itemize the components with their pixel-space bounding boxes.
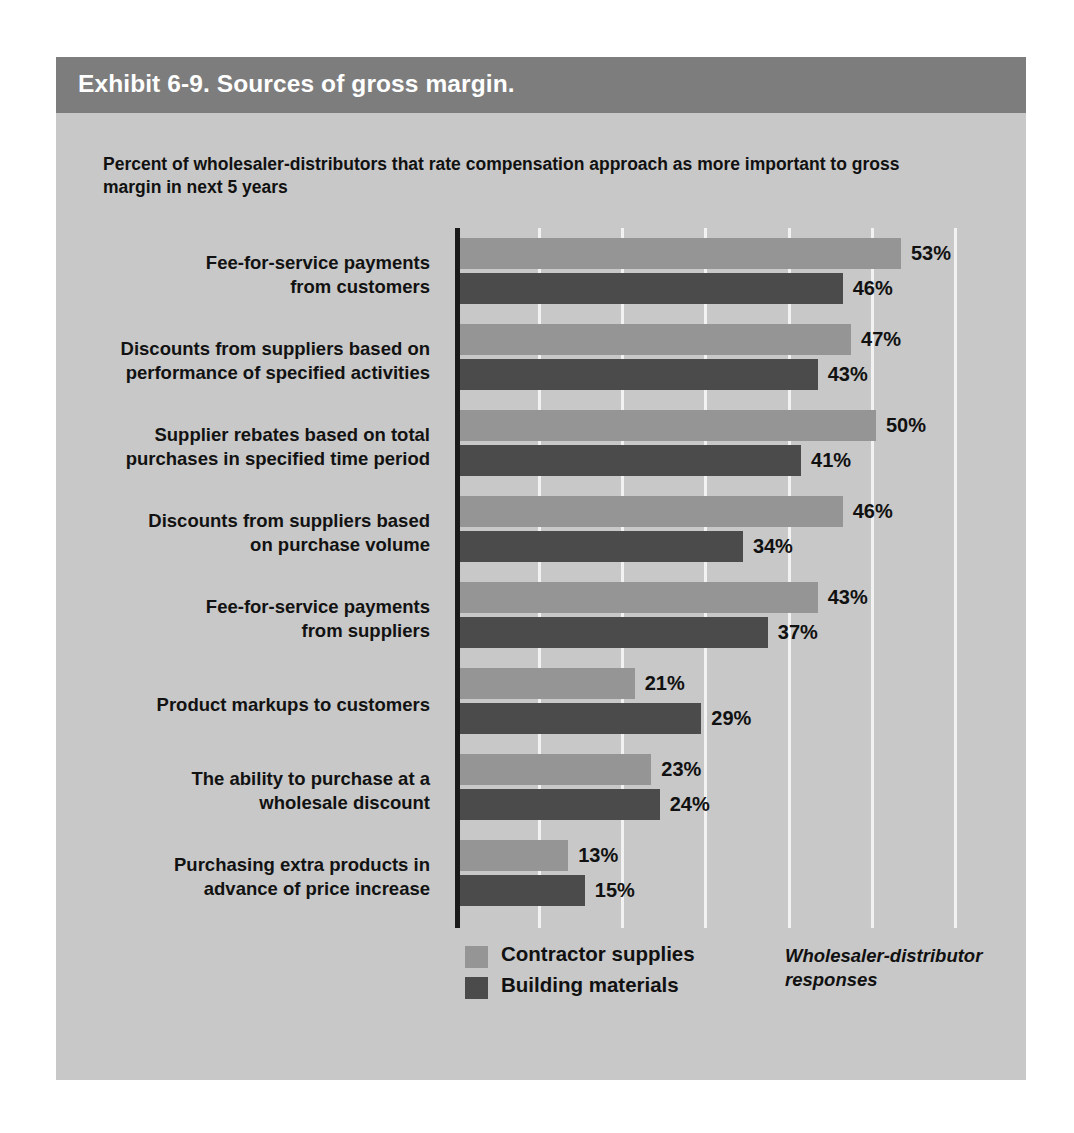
category-label-line: performance of specified activities	[90, 361, 430, 385]
bar-value-label: 37%	[778, 621, 818, 644]
category-label-line: Supplier rebates based on total	[90, 423, 430, 447]
bar-light[interactable]	[460, 840, 568, 871]
bar-value-label: 34%	[753, 535, 793, 558]
chart-subtitle: Percent of wholesaler-distributors that …	[103, 153, 933, 199]
source-note: Wholesaler-distributor responses	[785, 944, 1015, 992]
bar-row[interactable]: 43%	[460, 359, 1000, 390]
exhibit-title: Exhibit 6-9. Sources of gross margin.	[78, 70, 515, 98]
exhibit-card: Exhibit 6-9. Sources of gross margin. Pe…	[56, 57, 1026, 1080]
bar-light[interactable]	[460, 754, 651, 785]
bar-value-label: 13%	[578, 844, 618, 867]
bar-group: Fee-for-service paymentsfrom suppliers43…	[56, 576, 1026, 662]
bar-row[interactable]: 53%	[460, 238, 1000, 269]
bar-group: The ability to purchase at awholesale di…	[56, 748, 1026, 834]
bar-group: Supplier rebates based on totalpurchases…	[56, 404, 1026, 490]
category-label: Fee-for-service paymentsfrom customers	[90, 251, 430, 299]
bar-dark[interactable]	[460, 789, 660, 820]
bar-row[interactable]: 47%	[460, 324, 1000, 355]
bar-light[interactable]	[460, 324, 851, 355]
bar-group: Product markups to customers21%29%	[56, 662, 1026, 748]
category-label: Fee-for-service paymentsfrom suppliers	[90, 595, 430, 643]
category-label: Discounts from suppliers based onperform…	[90, 337, 430, 385]
bar-row[interactable]: 46%	[460, 273, 1000, 304]
chart-plot-area: Fee-for-service paymentsfrom customers53…	[56, 228, 1026, 928]
bar-row[interactable]: 24%	[460, 789, 1000, 820]
legend-label: Building materials	[501, 973, 679, 997]
bar-value-label: 23%	[661, 758, 701, 781]
category-label-line: from suppliers	[90, 619, 430, 643]
category-label-line: advance of price increase	[90, 877, 430, 901]
category-label-line: from customers	[90, 275, 430, 299]
category-label-line: Fee-for-service payments	[90, 595, 430, 619]
bar-value-label: 43%	[828, 586, 868, 609]
legend-swatch-icon	[465, 977, 488, 999]
bar-value-label: 29%	[711, 707, 751, 730]
bar-value-label: 47%	[861, 328, 901, 351]
bar-dark[interactable]	[460, 703, 701, 734]
bar-dark[interactable]	[460, 875, 585, 906]
bar-value-label: 43%	[828, 363, 868, 386]
bar-dark[interactable]	[460, 273, 843, 304]
bar-light[interactable]	[460, 582, 818, 613]
category-label: Product markups to customers	[90, 693, 430, 717]
category-label-line: purchases in specified time period	[90, 447, 430, 471]
bar-row[interactable]: 37%	[460, 617, 1000, 648]
bar-group: Purchasing extra products inadvance of p…	[56, 834, 1026, 920]
bar-row[interactable]: 41%	[460, 445, 1000, 476]
bar-row[interactable]: 29%	[460, 703, 1000, 734]
bar-row[interactable]: 43%	[460, 582, 1000, 613]
category-label: Supplier rebates based on totalpurchases…	[90, 423, 430, 471]
legend-swatch-icon	[465, 946, 488, 968]
bar-value-label: 15%	[595, 879, 635, 902]
bar-value-label: 41%	[811, 449, 851, 472]
bar-dark[interactable]	[460, 359, 818, 390]
bar-dark[interactable]	[460, 531, 743, 562]
bar-row[interactable]: 21%	[460, 668, 1000, 699]
category-label: Purchasing extra products inadvance of p…	[90, 853, 430, 901]
legend-label: Contractor supplies	[501, 942, 695, 966]
bar-dark[interactable]	[460, 617, 768, 648]
bar-group: Fee-for-service paymentsfrom customers53…	[56, 232, 1026, 318]
bar-row[interactable]: 50%	[460, 410, 1000, 441]
bar-value-label: 53%	[911, 242, 951, 265]
bar-value-label: 46%	[853, 500, 893, 523]
chart-legend: Contractor suppliesBuilding materials Wh…	[465, 942, 1025, 1012]
category-label-line: Fee-for-service payments	[90, 251, 430, 275]
bar-row[interactable]: 34%	[460, 531, 1000, 562]
category-label-line: wholesale discount	[90, 791, 430, 815]
bar-value-label: 21%	[645, 672, 685, 695]
bar-value-label: 46%	[853, 277, 893, 300]
category-label-line: on purchase volume	[90, 533, 430, 557]
bar-row[interactable]: 23%	[460, 754, 1000, 785]
bar-light[interactable]	[460, 668, 635, 699]
bar-light[interactable]	[460, 410, 876, 441]
category-label: The ability to purchase at awholesale di…	[90, 767, 430, 815]
bar-value-label: 50%	[886, 414, 926, 437]
category-label: Discounts from suppliers basedon purchas…	[90, 509, 430, 557]
category-label-line: Product markups to customers	[90, 693, 430, 717]
bar-row[interactable]: 13%	[460, 840, 1000, 871]
category-label-line: The ability to purchase at a	[90, 767, 430, 791]
category-label-line: Discounts from suppliers based	[90, 509, 430, 533]
bar-dark[interactable]	[460, 445, 801, 476]
category-label-line: Discounts from suppliers based on	[90, 337, 430, 361]
bar-light[interactable]	[460, 496, 843, 527]
bar-light[interactable]	[460, 238, 901, 269]
exhibit-title-band: Exhibit 6-9. Sources of gross margin.	[56, 57, 1026, 113]
category-label-line: Purchasing extra products in	[90, 853, 430, 877]
bar-group: Discounts from suppliers based onperform…	[56, 318, 1026, 404]
bar-value-label: 24%	[670, 793, 710, 816]
bar-row[interactable]: 46%	[460, 496, 1000, 527]
bar-row[interactable]: 15%	[460, 875, 1000, 906]
bar-group: Discounts from suppliers basedon purchas…	[56, 490, 1026, 576]
